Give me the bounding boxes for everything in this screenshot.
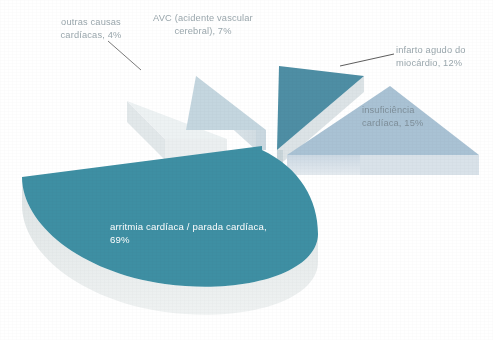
slice-label-insuficiencia: insuficiência cardíaca, 15% <box>362 104 448 129</box>
slice-label-avc: AVC (acidente vascular cerebral), 7% <box>141 12 265 37</box>
slice-avc[interactable] <box>186 76 266 130</box>
slice-side-insuficiencia <box>287 155 479 175</box>
leader-line-outras-causas <box>108 41 141 70</box>
slice-label-outras-causas: outras causas cardíacas, 4% <box>48 16 134 41</box>
slice-label-arritmia: arritmia cardíaca / parada cardíaca, 69% <box>110 220 300 247</box>
chart-canvas: outras causas cardíacas, 4% AVC (acident… <box>0 0 493 340</box>
leader-line-infarto <box>340 54 394 66</box>
slice-label-infarto: infarto agudo do miocárdio, 12% <box>396 44 488 69</box>
